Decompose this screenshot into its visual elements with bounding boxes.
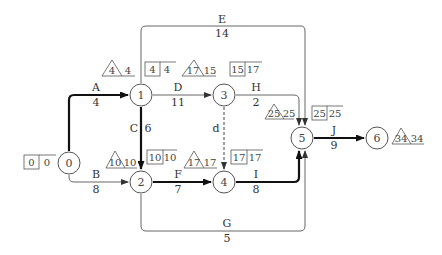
activity-H-name: H bbox=[251, 81, 261, 94]
node-2-tri-value-2: 10 bbox=[124, 157, 137, 168]
node-3: 3 bbox=[213, 84, 235, 106]
node-2-ls: 10 bbox=[164, 152, 177, 163]
dummy-activity-label: d bbox=[212, 122, 219, 135]
activity-C-name: C bbox=[130, 122, 138, 135]
node-2-label: 2 bbox=[138, 176, 145, 189]
activity-E-name: E bbox=[218, 13, 226, 26]
node-1-triangle-label: 4 4 bbox=[102, 60, 135, 76]
activity-D-duration: 11 bbox=[171, 96, 185, 109]
activity-F-name: F bbox=[174, 168, 182, 181]
node-0-label: 0 bbox=[66, 157, 73, 170]
node-1-time-box: 4 4 bbox=[145, 62, 176, 76]
node-1-tri-value-2: 4 bbox=[125, 65, 131, 76]
node-5: 5 bbox=[291, 127, 313, 149]
activity-B-duration: 8 bbox=[93, 183, 100, 196]
node-6-tri-value-2: 34 bbox=[411, 133, 424, 144]
node-4-label: 4 bbox=[221, 176, 228, 189]
activity-A-name: A bbox=[91, 81, 101, 94]
activity-G-name: G bbox=[223, 217, 232, 230]
node-6: 6 bbox=[366, 127, 388, 149]
activity-B-name: B bbox=[92, 168, 100, 181]
node-3-es: 15 bbox=[231, 64, 244, 75]
node-5-es: 25 bbox=[313, 108, 326, 119]
node-3-ls: 17 bbox=[247, 64, 260, 75]
activity-I-duration: 8 bbox=[253, 183, 260, 196]
node-2-time-box: 10 10 bbox=[147, 150, 177, 164]
node-5-label: 5 bbox=[299, 132, 306, 145]
node-5-time-box: 25 25 bbox=[312, 106, 343, 120]
node-5-ls: 25 bbox=[329, 108, 342, 119]
node-5-triangle-label: 25 25 bbox=[265, 104, 295, 119]
node-2-es: 10 bbox=[149, 152, 162, 163]
node-4-tri-value: 17 bbox=[188, 157, 201, 168]
node-1-label: 1 bbox=[138, 89, 145, 102]
node-5-tri-value-2: 25 bbox=[283, 108, 296, 119]
node-2: 2 bbox=[130, 171, 152, 193]
node-4-es: 17 bbox=[233, 152, 246, 163]
activity-I-arrow bbox=[236, 151, 299, 182]
node-0-ls: 0 bbox=[44, 157, 50, 168]
node-1: 1 bbox=[130, 84, 152, 106]
node-1-es: 4 bbox=[149, 64, 155, 75]
activity-G-duration: 5 bbox=[224, 232, 231, 245]
node-5-tri-value: 25 bbox=[268, 108, 281, 119]
node-1-ls: 4 bbox=[164, 64, 170, 75]
node-4: 4 bbox=[213, 171, 235, 193]
node-6-label: 6 bbox=[374, 132, 381, 145]
network-diagram: 0 1 2 3 4 5 6 A 4 B 8 C 6 D 11 E 14 H 2 … bbox=[0, 0, 442, 255]
activity-E-duration: 14 bbox=[215, 27, 229, 40]
node-3-label: 3 bbox=[221, 89, 228, 102]
node-2-tri-value: 10 bbox=[109, 157, 122, 168]
node-0-time-box: 0 0 bbox=[24, 155, 56, 169]
node-3-triangle-label: 17 15 bbox=[182, 60, 216, 76]
activity-A-duration: 4 bbox=[93, 96, 100, 109]
node-4-ls: 17 bbox=[249, 152, 262, 163]
activity-C-duration: 6 bbox=[145, 122, 152, 135]
node-4-time-box: 17 17 bbox=[231, 150, 263, 164]
node-1-tri-value: 4 bbox=[109, 65, 115, 76]
activity-H-duration: 2 bbox=[253, 96, 260, 109]
node-4-tri-value-2: 17 bbox=[204, 157, 217, 168]
node-6-triangle-label: 34 34 bbox=[392, 128, 424, 144]
activity-D-name: D bbox=[174, 81, 183, 94]
node-3-time-box: 15 17 bbox=[230, 62, 262, 76]
activity-I-name: I bbox=[254, 168, 258, 181]
node-0: 0 bbox=[58, 152, 80, 174]
node-0-es: 0 bbox=[28, 157, 34, 168]
activity-F-duration: 7 bbox=[175, 183, 182, 196]
node-2-triangle-label: 10 10 bbox=[106, 151, 137, 168]
activity-J-name: J bbox=[331, 124, 336, 137]
activity-J-duration: 9 bbox=[331, 139, 338, 152]
node-3-tri-value-2: 15 bbox=[204, 65, 217, 76]
node-3-tri-value: 17 bbox=[187, 65, 200, 76]
activity-E-arrow bbox=[141, 26, 305, 125]
node-6-tri-value: 34 bbox=[395, 133, 408, 144]
node-4-triangle-label: 17 17 bbox=[184, 151, 217, 168]
